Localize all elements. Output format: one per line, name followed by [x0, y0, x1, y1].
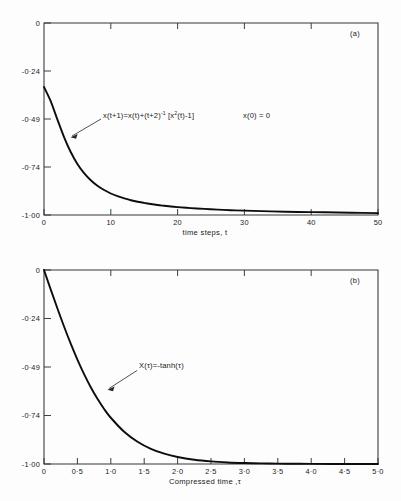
x-tick-label-a-2: 20	[173, 218, 182, 227]
x-tick-label-b-8: 4·0	[306, 467, 317, 476]
y-tick-label-b-0: 0	[36, 266, 40, 275]
y-tick-label-a-0: 0	[36, 19, 40, 28]
x-tick-label-b-1: 0·5	[72, 467, 83, 476]
leader-line-b	[109, 371, 137, 389]
equation-annotation-a: x(t+1)=x(t)+(t+2)-1 [x2(t)-1]	[103, 110, 194, 120]
panel-a: 0 -0·24 -0·49 -0·74 -1·00 0	[0, 0, 401, 250]
x-tick-label-b-9: 4·5	[339, 467, 350, 476]
x-tick-label-b-0: 0	[42, 467, 46, 476]
x-tick-label-a-5: 50	[374, 218, 383, 227]
y-tick-label-a-4: -1·00	[22, 211, 40, 220]
data-curve-b	[44, 270, 378, 464]
x-tick-label-a-1: 10	[106, 218, 115, 227]
equation-tail-a: [x	[166, 111, 175, 120]
x-tick-label-b-6: 3·0	[239, 467, 250, 476]
plot-frame-a	[44, 23, 378, 215]
x-tick-label-b-7: 3·5	[272, 467, 283, 476]
x-axis-title-b: Compressed time ,τ	[169, 477, 241, 486]
plot-frame-b	[44, 270, 378, 464]
y-tick-label-a-3: -0·74	[22, 163, 40, 172]
x-axis-ticks-top-a	[111, 23, 311, 29]
x-tick-label-a-4: 40	[307, 218, 316, 227]
panel-tag-b: (b)	[350, 276, 360, 285]
initial-condition-a: x(0) = 0	[243, 111, 270, 120]
panel-a-plot: 0 -0·24 -0·49 -0·74 -1·00 0	[0, 0, 401, 250]
y-tick-label-b-4: -1·00	[22, 460, 40, 469]
y-tick-label-b-2: -0·49	[22, 363, 40, 372]
x-tick-label-b-2: 1·0	[105, 467, 116, 476]
panel-b-plot: 0 -0·24 -0·49 -0·74 -1·00	[0, 250, 401, 501]
x-axis-title-a: time steps, t	[183, 228, 228, 237]
equation-main-a: x(t+1)=x(t)+(t+2)	[103, 111, 161, 120]
y-tick-label-a-2: -0·49	[22, 115, 40, 124]
x-tick-label-a-0: 0	[42, 218, 46, 227]
y-axis-ticks-a	[44, 23, 51, 215]
y-tick-label-b-1: -0·24	[22, 314, 40, 323]
equation-tail2-a: (t)-1]	[177, 111, 194, 120]
y-tick-label-a-1: -0·24	[22, 67, 40, 76]
x-tick-label-b-3: 1·5	[139, 467, 150, 476]
figure-root: 0 -0·24 -0·49 -0·74 -1·00 0	[0, 0, 401, 501]
equation-annotation-b: X(τ)=-tanh(τ)	[139, 361, 184, 370]
x-tick-label-b-10: 5·0	[372, 467, 383, 476]
y-axis-ticks-b	[44, 270, 51, 464]
x-tick-label-b-4: 2·0	[172, 467, 183, 476]
x-axis-ticks-top-b	[111, 270, 311, 276]
x-tick-label-b-5: 2·5	[205, 467, 216, 476]
leader-line-a	[72, 119, 101, 136]
panel-b: 0 -0·24 -0·49 -0·74 -1·00	[0, 250, 401, 501]
panel-tag-a: (a)	[350, 29, 360, 38]
y-tick-label-b-3: -0·74	[22, 411, 40, 420]
data-curve-a	[44, 87, 378, 213]
x-tick-label-a-3: 30	[240, 218, 249, 227]
